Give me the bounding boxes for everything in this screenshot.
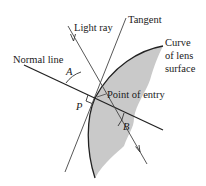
curve-label-line3: surface (165, 63, 196, 74)
tangent-label: Tangent (128, 14, 162, 25)
light-ray-label: Light ray (74, 22, 114, 33)
curve-label-line2: of lens (165, 50, 193, 61)
normal-line-label: Normal line (13, 54, 64, 65)
point-of-entry-label: Point of entry (107, 89, 165, 100)
curve-label-line1: Curve (165, 37, 191, 48)
point-p-label: P (75, 101, 83, 112)
angle-a-label: A (65, 66, 73, 77)
lens-refraction-diagram: Light ray Tangent Normal line Curve of l… (0, 0, 206, 186)
angle-b-label: B (123, 121, 130, 132)
